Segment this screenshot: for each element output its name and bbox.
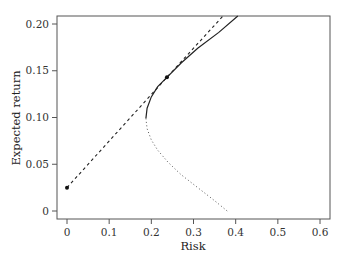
chart-root: 00.10.20.30.40.50.6 00.050.100.150.20 Ri… bbox=[0, 0, 347, 261]
x-tick-label: 0.4 bbox=[227, 226, 244, 238]
x-tick-label: 0.1 bbox=[101, 226, 118, 238]
y-axis-ticks: 00.050.100.150.20 bbox=[26, 18, 57, 217]
x-tick-label: 0.5 bbox=[269, 226, 286, 238]
y-tick-label: 0.05 bbox=[26, 158, 49, 170]
x-axis-label: Risk bbox=[180, 239, 206, 253]
y-tick-label: 0.15 bbox=[26, 64, 49, 76]
plot-frame bbox=[57, 16, 330, 219]
series-line bbox=[146, 16, 238, 118]
plot-series bbox=[65, 16, 238, 211]
data-point-marker bbox=[65, 186, 69, 190]
x-axis-ticks: 00.10.20.30.40.50.6 bbox=[64, 219, 329, 238]
series-line bbox=[146, 118, 227, 211]
x-tick-label: 0.3 bbox=[185, 226, 202, 238]
y-tick-label: 0.10 bbox=[26, 111, 49, 123]
series-line bbox=[67, 16, 223, 188]
y-axis-label: Expected return bbox=[9, 70, 23, 166]
y-tick-label: 0.20 bbox=[26, 18, 49, 30]
x-tick-label: 0.6 bbox=[312, 226, 329, 238]
x-tick-label: 0.2 bbox=[143, 226, 160, 238]
y-tick-label: 0 bbox=[42, 205, 49, 217]
data-point-marker bbox=[165, 75, 169, 79]
x-tick-label: 0 bbox=[64, 226, 71, 238]
